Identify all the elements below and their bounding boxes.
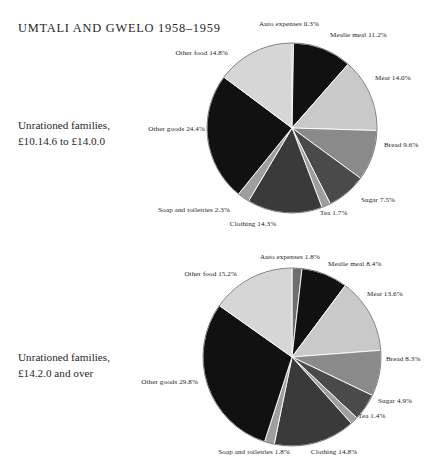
figure-page: UMTALI AND GWELO 1958–1959 Unrationed fa… — [0, 0, 439, 476]
chart-1-caption-line-1: Unrationed families, — [18, 119, 110, 131]
chart-2-caption-line-2: £14.2.0 and over — [18, 365, 110, 381]
chart-1-label-sugar: Sugar 7.5% — [361, 196, 395, 204]
pie-chart-1-svg — [206, 42, 378, 214]
chart-2-label-other-goods: Other goods 29.8% — [141, 378, 198, 386]
chart-1-label-auto-expenses: Auto expenses 0.3% — [259, 20, 319, 28]
chart-1-caption: Unrationed families, £10.14.6 to £14.0.0 — [18, 117, 110, 149]
chart-1-label-other-goods: Other goods 24.4% — [148, 125, 205, 133]
chart-2-caption: Unrationed families, £14.2.0 and over — [18, 349, 110, 381]
chart-2-label-soap-and-toiletries: Soap and toiletries 1.8% — [218, 448, 290, 456]
pie-chart-2-svg — [202, 267, 382, 447]
page-title: UMTALI AND GWELO 1958–1959 — [18, 21, 221, 36]
chart-1-label-soap-and-toiletries: Soap and toiletries 2.3% — [158, 206, 230, 214]
chart-2-caption-line-1: Unrationed families, — [18, 351, 110, 363]
chart-1-label-tea: Tea 1.7% — [320, 209, 347, 217]
chart-1-caption-line-2: £10.14.6 to £14.0.0 — [18, 133, 110, 149]
pie-chart-2 — [202, 267, 382, 447]
pie-chart-1 — [206, 42, 378, 214]
chart-2-label-bread: Bread 8.3% — [386, 355, 421, 363]
chart-2-label-other-food: Other food 15.2% — [184, 270, 237, 278]
chart-2-label-meat: Meat 13.6% — [367, 290, 403, 298]
chart-1-label-clothing: Clothing 14.3% — [230, 220, 276, 228]
chart-1-label-bread: Bread 9.6% — [384, 141, 419, 149]
chart-1-label-other-food: Other food 14.8% — [175, 49, 228, 57]
chart-2-label-sugar: Sugar 4.9% — [378, 397, 412, 405]
chart-1-label-mealie-meal: Mealie meal 11.2% — [330, 31, 387, 39]
chart-2-label-clothing: Clothing 14.8% — [311, 448, 357, 456]
chart-2-label-tea: Tea 1.4% — [358, 412, 385, 420]
chart-2-label-auto-expenses: Auto expenses 1.8% — [260, 253, 320, 261]
chart-2-label-mealie-meal: Mealie meal 8.4% — [328, 260, 381, 268]
chart-1-label-meat: Meat 14.0% — [375, 74, 411, 82]
